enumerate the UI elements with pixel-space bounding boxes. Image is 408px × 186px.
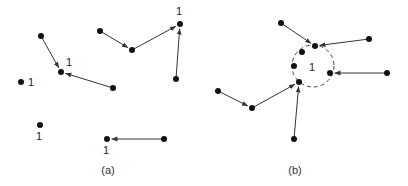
edge-arrow (281, 23, 311, 43)
graph-node (161, 136, 167, 142)
edge-arrow (319, 39, 369, 45)
graph-node (366, 36, 372, 42)
graph-node (291, 136, 297, 142)
panel-caption: (a) (101, 164, 114, 176)
graph-node (278, 20, 284, 26)
edge-arrow (218, 91, 248, 106)
panel-caption: (b) (288, 164, 301, 176)
graph-node (215, 88, 221, 94)
graph-node (177, 21, 183, 27)
graph-node (312, 43, 318, 49)
node-label: 1 (66, 56, 72, 68)
graph-node (18, 79, 24, 85)
graph-node (384, 70, 390, 76)
panel-b: 1(b) (215, 20, 390, 176)
graph-node (327, 70, 333, 76)
graph-node (104, 136, 110, 142)
edge-arrow (100, 31, 128, 48)
edge-arrow (176, 28, 180, 79)
graph-node (110, 85, 116, 91)
cluster-label: 1 (309, 61, 315, 73)
panel-a: 11111(a) (18, 5, 183, 176)
graph-node (299, 49, 305, 55)
graph-node (291, 63, 297, 69)
graph-node (296, 79, 302, 85)
node-label: 1 (103, 144, 109, 156)
node-label: 1 (36, 130, 42, 142)
node-label: 1 (28, 76, 34, 88)
edge-arrow (294, 86, 299, 139)
graph-node (38, 33, 44, 39)
graph-diagram: 11111(a) 1(b) (0, 0, 408, 186)
edge-arrow (65, 73, 113, 88)
edge-arrow (252, 84, 295, 108)
node-label: 1 (176, 5, 182, 17)
graph-node (37, 122, 43, 128)
graph-node (249, 105, 255, 111)
edge-arrow (41, 36, 59, 68)
graph-node (173, 76, 179, 82)
graph-node (97, 28, 103, 34)
graph-node (129, 47, 135, 53)
edge-arrow (132, 26, 176, 50)
graph-node (58, 69, 64, 75)
